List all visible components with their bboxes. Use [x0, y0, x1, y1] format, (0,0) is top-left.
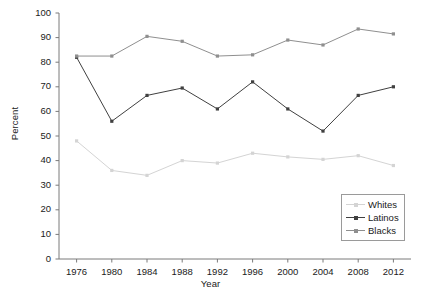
legend-item-latinos: Latinos — [346, 211, 399, 224]
y-tick-label: 10 — [27, 228, 51, 239]
series-latinos — [75, 56, 395, 133]
y-axis-title: Percent — [9, 94, 20, 154]
y-tick-label: 0 — [27, 253, 51, 264]
x-axis-title: Year — [0, 278, 421, 289]
legend-marker-dot — [354, 216, 358, 220]
y-tick-label: 20 — [27, 203, 51, 214]
data-point-marker — [145, 174, 148, 177]
x-tick-label: 2000 — [268, 266, 308, 277]
data-series-group — [75, 27, 395, 177]
legend-swatch-latinos — [346, 212, 365, 223]
y-tick-label: 40 — [27, 154, 51, 165]
y-tick-label: 80 — [27, 56, 51, 67]
y-tick-label: 100 — [27, 7, 51, 18]
line-chart: 0102030405060708090100 19761980198419881… — [0, 0, 421, 297]
legend-marker-dot — [354, 203, 358, 207]
legend-label-whites: Whites — [368, 199, 397, 210]
data-point-marker — [181, 40, 184, 43]
legend-marker-dot — [354, 229, 358, 233]
legend-item-whites: Whites — [346, 198, 399, 211]
legend-label-latinos: Latinos — [368, 212, 399, 223]
series-whites — [75, 139, 395, 177]
legend-swatch-whites — [346, 199, 365, 210]
data-point-marker — [357, 27, 360, 30]
x-tick-label: 1984 — [127, 266, 167, 277]
x-tick-label: 2008 — [338, 266, 378, 277]
x-tick-label: 1992 — [197, 266, 237, 277]
data-point-marker — [251, 80, 254, 83]
x-tick-label: 1976 — [57, 266, 97, 277]
data-point-marker — [216, 161, 219, 164]
chart-plot-area — [0, 0, 421, 297]
legend-item-blacks: Blacks — [346, 224, 399, 237]
data-point-marker — [251, 53, 254, 56]
chart-legend: Whites Latinos Blacks — [341, 194, 405, 241]
series-line — [77, 141, 394, 175]
data-point-marker — [392, 32, 395, 35]
data-point-marker — [251, 152, 254, 155]
data-point-marker — [286, 155, 289, 158]
data-point-marker — [392, 85, 395, 88]
y-tick-label: 70 — [27, 80, 51, 91]
legend-swatch-blacks — [346, 225, 365, 236]
data-point-marker — [75, 54, 78, 57]
series-blacks — [75, 27, 395, 57]
data-point-marker — [321, 158, 324, 161]
data-point-marker — [286, 38, 289, 41]
x-tick-label: 1988 — [162, 266, 202, 277]
data-point-marker — [321, 43, 324, 46]
data-point-marker — [216, 54, 219, 57]
data-point-marker — [181, 159, 184, 162]
y-tick-label: 30 — [27, 179, 51, 190]
data-point-marker — [145, 94, 148, 97]
data-point-marker — [145, 35, 148, 38]
data-point-marker — [357, 154, 360, 157]
data-point-marker — [286, 107, 289, 110]
data-point-marker — [181, 86, 184, 89]
data-point-marker — [110, 54, 113, 57]
y-tick-label: 50 — [27, 130, 51, 141]
x-tick-label: 1980 — [92, 266, 132, 277]
data-point-marker — [321, 129, 324, 132]
x-tick-label: 2004 — [303, 266, 343, 277]
data-point-marker — [75, 139, 78, 142]
x-tick-label: 1996 — [233, 266, 273, 277]
data-point-marker — [392, 164, 395, 167]
x-tick-label: 2012 — [373, 266, 413, 277]
legend-label-blacks: Blacks — [368, 225, 396, 236]
y-tick-label: 90 — [27, 31, 51, 42]
data-point-marker — [216, 107, 219, 110]
data-point-marker — [110, 120, 113, 123]
data-point-marker — [110, 169, 113, 172]
y-tick-label: 60 — [27, 105, 51, 116]
series-line — [77, 57, 394, 131]
data-point-marker — [357, 94, 360, 97]
series-line — [77, 29, 394, 56]
